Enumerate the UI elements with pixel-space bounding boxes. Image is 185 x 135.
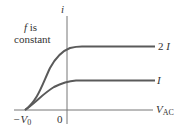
stopping-voltage-label: −V0 [13, 114, 31, 127]
curve-label-2i-var: I [166, 40, 170, 52]
curve-i [25, 81, 155, 111]
x-axis-label-sub: AC [163, 108, 174, 117]
curve-label-2i-num: 2 [158, 40, 166, 52]
curve-label-2i: 2 I [158, 41, 170, 52]
stopping-voltage-sub: 0 [27, 118, 31, 127]
stopping-voltage-main: −V [13, 113, 27, 125]
x-axis-label: VAC [156, 104, 174, 117]
annotation-constant: constant [14, 34, 51, 45]
origin-label: 0 [57, 114, 63, 125]
annotation-is: is [27, 21, 37, 33]
x-axis-label-main: V [156, 103, 163, 115]
curve-2i [25, 47, 155, 111]
y-axis-label: i [61, 4, 64, 15]
annotation-f-is: f is [24, 22, 37, 33]
curve-label-i: I [157, 75, 161, 86]
